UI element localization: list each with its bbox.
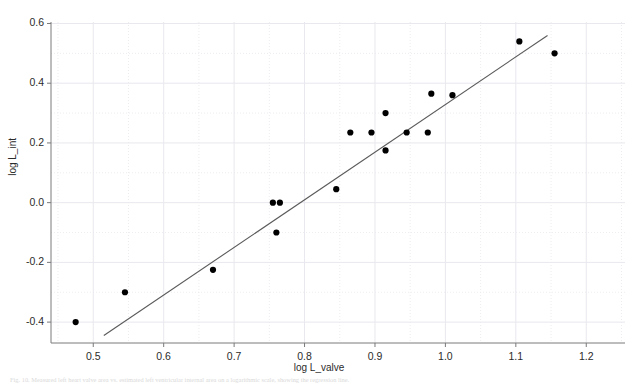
data-point bbox=[404, 129, 410, 135]
scatter-plot bbox=[0, 0, 638, 385]
x-tick-label: 0.9 bbox=[355, 350, 395, 362]
figure-caption: Fig. 10. Measured left heart valve area … bbox=[10, 376, 630, 384]
x-tick-label: 0.5 bbox=[73, 350, 113, 362]
data-point bbox=[270, 200, 276, 206]
major-gridlines bbox=[51, 22, 625, 343]
regression-line bbox=[104, 35, 548, 335]
axis-ticks bbox=[47, 23, 586, 347]
x-axis-label: log L_valve bbox=[0, 362, 638, 373]
minor-gridlines bbox=[51, 22, 625, 343]
data-points bbox=[73, 38, 558, 325]
data-point bbox=[333, 186, 339, 192]
data-point bbox=[347, 129, 353, 135]
x-tick-label: 0.7 bbox=[214, 350, 254, 362]
data-point bbox=[428, 91, 434, 97]
data-point bbox=[449, 92, 455, 98]
data-point bbox=[368, 129, 374, 135]
x-tick-label: 1.2 bbox=[566, 350, 606, 362]
axes-frame bbox=[51, 22, 625, 343]
data-point bbox=[73, 319, 79, 325]
x-tick-label: 1.1 bbox=[496, 350, 536, 362]
data-point bbox=[425, 129, 431, 135]
data-point bbox=[273, 229, 279, 235]
x-tick-label: 0.6 bbox=[144, 350, 184, 362]
data-point bbox=[122, 289, 128, 295]
y-tick-label: -0.2 bbox=[14, 255, 44, 267]
y-tick-label: 0.6 bbox=[14, 16, 44, 28]
data-point bbox=[382, 147, 388, 153]
x-tick-label: 0.8 bbox=[285, 350, 325, 362]
y-tick-label: -0.4 bbox=[14, 315, 44, 327]
data-point bbox=[516, 38, 522, 44]
data-point bbox=[210, 267, 216, 273]
figure-container: log L_int log L_valve 0.60.40.20.0-0.2-0… bbox=[0, 0, 638, 385]
y-tick-label: 0.0 bbox=[14, 196, 44, 208]
y-tick-label: 0.2 bbox=[14, 136, 44, 148]
data-point bbox=[382, 110, 388, 116]
y-tick-label: 0.4 bbox=[14, 76, 44, 88]
x-tick-label: 1.0 bbox=[425, 350, 465, 362]
data-point bbox=[551, 50, 557, 56]
data-point bbox=[277, 200, 283, 206]
